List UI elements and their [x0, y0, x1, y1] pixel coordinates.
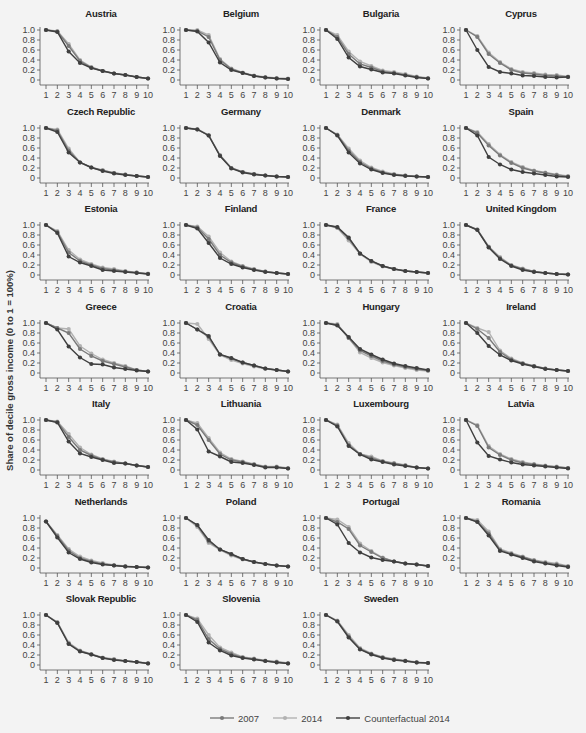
y-tick-label: 0.6: [442, 533, 455, 543]
x-tick-label: 6: [100, 675, 105, 685]
y-tick-label: 0.8: [22, 133, 35, 143]
y-tick-label: 0.4: [22, 153, 35, 163]
y-tick-label: 0.4: [302, 543, 315, 553]
y-tick-label: 0.6: [22, 533, 35, 543]
y-tick-label: 0.8: [302, 230, 315, 240]
y-tick-label: 0.8: [302, 328, 315, 338]
y-tick-label: 0.8: [22, 620, 35, 630]
y-tick-label: 1.0: [302, 415, 315, 425]
y-tick-label: 0: [310, 173, 315, 183]
series-2007: [184, 28, 290, 81]
line-chart: 00.20.40.60.81.012345678910: [158, 482, 300, 592]
chart-panel-portugal: Portugal00.20.40.60.81.012345678910: [298, 482, 440, 580]
line-chart: 00.20.40.60.81.012345678910: [18, 0, 160, 104]
x-tick-label: 9: [554, 578, 559, 588]
legend-line-marker-icon: [336, 714, 360, 722]
line-chart: 00.20.40.60.81.012345678910: [158, 287, 300, 397]
x-tick-label: 6: [380, 675, 385, 685]
x-tick-label: 8: [403, 675, 408, 685]
chart-panel-cyprus: Cyprus00.20.40.60.81.012345678910: [438, 0, 580, 92]
y-tick-label: 0.6: [162, 338, 175, 348]
y-tick-label: 0: [450, 270, 455, 280]
y-tick-label: 0.2: [302, 260, 315, 270]
y-tick-label: 0.8: [22, 328, 35, 338]
line-chart: 00.20.40.60.81.012345678910: [158, 189, 300, 299]
legend-item: Counterfactual 2014: [336, 713, 450, 724]
y-tick-label: 0.6: [442, 435, 455, 445]
x-tick-label: 10: [143, 675, 153, 685]
chart-panel-czech-republic: Czech Republic00.20.40.60.81.01234567891…: [18, 92, 160, 190]
y-tick-label: 0.4: [442, 543, 455, 553]
x-tick-label: 10: [283, 675, 293, 685]
y-tick-label: 0.2: [442, 358, 455, 368]
series-2014: [464, 320, 570, 372]
y-tick-label: 0.4: [22, 55, 35, 65]
x-tick-label: 9: [134, 675, 139, 685]
y-tick-label: 0.2: [442, 65, 455, 75]
x-tick-label: 6: [520, 578, 525, 588]
x-tick-label: 6: [240, 675, 245, 685]
series-counterfactual-2014: [184, 613, 290, 666]
series-counterfactual-2014: [184, 320, 290, 373]
y-tick-label: 0.4: [302, 348, 315, 358]
y-tick-label: 1.0: [442, 25, 455, 35]
y-tick-label: 0.4: [162, 543, 175, 553]
legend-label: Counterfactual 2014: [364, 713, 450, 724]
y-tick-label: 0.2: [22, 553, 35, 563]
y-tick-label: 0.2: [442, 260, 455, 270]
series-2014: [324, 28, 430, 80]
y-tick-label: 0: [30, 270, 35, 280]
y-tick-label: 1.0: [162, 123, 175, 133]
y-tick-label: 0.6: [442, 143, 455, 153]
series-counterfactual-2014: [324, 125, 430, 178]
chart-panel-poland: Poland00.20.40.60.81.012345678910: [158, 482, 300, 580]
y-tick-label: 0.2: [302, 650, 315, 660]
line-chart: 00.20.40.60.81.012345678910: [298, 189, 440, 299]
y-tick-label: 1.0: [22, 25, 35, 35]
y-tick-label: 1.0: [302, 220, 315, 230]
y-tick-label: 0.6: [22, 435, 35, 445]
legend-item: 2014: [273, 713, 322, 724]
series-counterfactual-2014: [44, 613, 150, 666]
y-tick-label: 1.0: [442, 415, 455, 425]
series-2014: [44, 613, 150, 665]
y-tick-label: 0.2: [302, 163, 315, 173]
series-2007: [324, 28, 430, 81]
y-tick-label: 1.0: [162, 610, 175, 620]
x-tick-label: 1: [43, 675, 48, 685]
y-tick-label: 0.2: [442, 163, 455, 173]
y-tick-label: 0.2: [162, 455, 175, 465]
x-tick-label: 10: [563, 578, 573, 588]
y-tick-label: 0.6: [22, 630, 35, 640]
y-tick-label: 0.6: [22, 240, 35, 250]
y-tick-label: 0.8: [22, 425, 35, 435]
y-tick-label: 0.8: [22, 230, 35, 240]
series-counterfactual-2014: [44, 28, 150, 81]
series-2007: [184, 320, 290, 373]
series-2007: [44, 125, 150, 178]
axes: [180, 125, 289, 183]
chart-panel-italy: Italy00.20.40.60.81.012345678910: [18, 384, 160, 482]
y-tick-label: 1.0: [302, 610, 315, 620]
series-2007: [464, 515, 570, 568]
y-tick-label: 1.0: [22, 123, 35, 133]
y-tick-label: 0: [170, 173, 175, 183]
series-2014: [184, 515, 290, 568]
y-tick-label: 0.2: [442, 455, 455, 465]
y-tick-label: 0.4: [162, 250, 175, 260]
y-tick-label: 0.8: [302, 133, 315, 143]
line-chart: 00.20.40.60.81.012345678910: [438, 0, 580, 104]
chart-panel-france: France00.20.40.60.81.012345678910: [298, 189, 440, 287]
y-tick-label: 0.8: [162, 620, 175, 630]
y-tick-label: 1.0: [22, 610, 35, 620]
y-tick-label: 0: [450, 563, 455, 573]
x-tick-label: 5: [509, 578, 514, 588]
y-tick-label: 0.6: [162, 45, 175, 55]
y-tick-label: 1.0: [162, 25, 175, 35]
y-tick-label: 0: [310, 563, 315, 573]
line-chart: 00.20.40.60.81.012345678910: [18, 384, 160, 494]
y-tick-label: 0.6: [162, 240, 175, 250]
chart-panel-slovenia: Slovenia00.20.40.60.81.012345678910: [158, 579, 300, 677]
y-tick-label: 0: [170, 75, 175, 85]
line-chart: 00.20.40.60.81.012345678910: [18, 579, 160, 689]
